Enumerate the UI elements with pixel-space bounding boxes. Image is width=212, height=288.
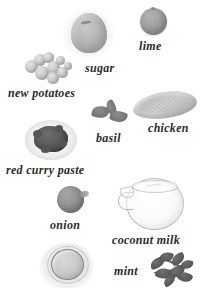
potato-piece (64, 62, 72, 70)
ingredient-layout-page: sugar lime new potatoes chicken basil (0, 0, 212, 288)
basil-leaf (109, 109, 129, 125)
curry-paste-lump (41, 147, 50, 153)
curry-paste-lump (59, 140, 67, 147)
lime-stem-detail (151, 7, 155, 10)
ingredient-label-basil: basil (96, 132, 121, 144)
onion-neck-detail (79, 190, 89, 198)
curry-paste-lump (55, 125, 63, 132)
ingredient-art-basil (92, 100, 130, 128)
ingredient-art-bowl (42, 243, 94, 288)
bowl-inner-well (51, 249, 84, 280)
ingredient-label-sugar: sugar (85, 62, 115, 74)
ingredient-art-onion (57, 186, 91, 216)
ingredient-art-new-potatoes (23, 52, 81, 86)
ingredient-label-chicken: chicken (148, 122, 189, 134)
onion-bulb-icon (57, 186, 84, 213)
ingredient-label-onion: onion (50, 219, 80, 231)
ingredient-art-coconut-milk: coconut (118, 178, 188, 232)
ingredient-label-new-potatoes: new potatoes (8, 87, 75, 99)
sugar-mound-icon (71, 13, 107, 53)
lime-fruit-icon (140, 8, 167, 35)
ingredient-art-chicken (133, 92, 201, 122)
ingredient-art-red-curry-paste (25, 120, 79, 162)
ingredient-art-lime (140, 8, 168, 38)
ingredient-art-mint (150, 252, 198, 288)
ingredient-label-coconut-milk: coconut milk (112, 234, 180, 246)
ingredient-label-mint: mint (114, 265, 138, 277)
ingredient-label-red-curry-paste: red curry paste (6, 164, 85, 176)
mint-leaf (180, 259, 193, 270)
curry-paste-lump (33, 130, 42, 138)
ingredient-label-lime: lime (139, 40, 162, 52)
